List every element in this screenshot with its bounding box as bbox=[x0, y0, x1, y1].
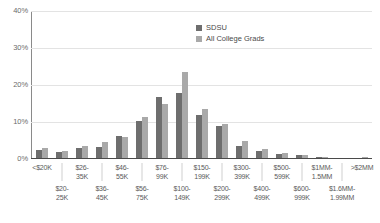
bar bbox=[162, 104, 168, 159]
x-axis-tick-label: <$20K bbox=[32, 160, 52, 222]
bar bbox=[122, 137, 128, 159]
bar-group bbox=[272, 11, 292, 159]
bar-group bbox=[172, 11, 192, 159]
legend-swatch-icon bbox=[196, 36, 202, 42]
x-axis-tick-text: $400-499K bbox=[254, 185, 271, 202]
y-axis-tick-label: 0% bbox=[17, 155, 28, 163]
x-axis-tick-text: $500-599K bbox=[274, 164, 291, 181]
x-axis-tick-label: $600-999K bbox=[292, 160, 312, 222]
bar bbox=[216, 126, 222, 159]
bar-group bbox=[52, 11, 72, 159]
x-axis-tick-label: $500-599K bbox=[272, 160, 292, 222]
x-axis-tick-mark bbox=[182, 163, 183, 181]
x-axis-tick-label: $200-299K bbox=[212, 160, 232, 222]
y-axis-tick-label: 20% bbox=[13, 81, 28, 89]
x-axis-tick-text: $100-149K bbox=[174, 185, 191, 202]
y-axis: 40%30%20%10%0% bbox=[0, 0, 30, 163]
legend-item[interactable]: SDSU bbox=[196, 24, 264, 32]
bar-group bbox=[152, 11, 172, 159]
bar-group bbox=[132, 11, 152, 159]
x-axis-tick-text: $300-399K bbox=[234, 164, 251, 181]
x-axis-tick-mark bbox=[142, 163, 143, 181]
legend-swatch-icon bbox=[196, 25, 202, 31]
x-axis-tick-label: $300-399K bbox=[232, 160, 252, 222]
x-axis-tick-text: >$2MM bbox=[351, 164, 374, 173]
x-axis-tick-text: $26-35K bbox=[75, 164, 88, 181]
y-axis-tick-label: 10% bbox=[13, 118, 28, 126]
x-axis-tick-text: $20-25K bbox=[55, 185, 68, 202]
bar-group bbox=[92, 11, 112, 159]
x-axis-tick-text: $46-55K bbox=[115, 164, 128, 181]
bar bbox=[102, 142, 108, 159]
bar-group bbox=[112, 11, 132, 159]
bar-group bbox=[352, 11, 372, 159]
bar-group bbox=[312, 11, 332, 159]
bar bbox=[222, 124, 228, 159]
x-axis-tick-label: >$2MM bbox=[352, 160, 372, 222]
bar bbox=[136, 121, 142, 159]
bar bbox=[176, 93, 182, 159]
x-axis-tick-label: $56-75K bbox=[132, 160, 152, 222]
x-axis-labels: <$20K$20-25K$26-35K$36-45K$46-55K$56-75K… bbox=[32, 160, 372, 222]
bar-group bbox=[32, 11, 52, 159]
bar bbox=[236, 146, 242, 159]
x-axis-tick-label: $46-55K bbox=[112, 160, 132, 222]
x-axis-tick-mark bbox=[342, 163, 343, 181]
x-axis-tick-label: $150-199K bbox=[192, 160, 212, 222]
x-axis-tick-mark bbox=[262, 163, 263, 181]
y-axis-tick-label: 40% bbox=[13, 7, 28, 15]
x-axis-tick-label: $20-25K bbox=[52, 160, 72, 222]
bar bbox=[142, 117, 148, 159]
x-axis-tick-mark bbox=[302, 163, 303, 181]
legend-item-label: All College Grads bbox=[206, 35, 264, 43]
x-axis-tick-mark bbox=[62, 163, 63, 181]
bar bbox=[242, 141, 248, 159]
bar bbox=[196, 115, 202, 159]
x-axis-tick-label: $100-149K bbox=[172, 160, 192, 222]
x-axis-tick-text: $1MM-1.5MM bbox=[312, 164, 333, 181]
x-axis-tick-label: $1.6MM-1.99MM bbox=[332, 160, 352, 222]
x-axis-tick-label: $400-499K bbox=[252, 160, 272, 222]
x-axis-tick-label: $36-45K bbox=[92, 160, 112, 222]
x-axis-tick-mark bbox=[222, 163, 223, 181]
x-axis-tick-label: $26-35K bbox=[72, 160, 92, 222]
x-axis-tick-text: $76-99K bbox=[155, 164, 168, 181]
bar-chart: 40%30%20%10%0% SDSUAll College Grads <$2… bbox=[0, 0, 380, 223]
bar bbox=[116, 136, 122, 159]
bar-group bbox=[72, 11, 92, 159]
x-axis-tick-text: $600-999K bbox=[294, 185, 311, 202]
x-axis-tick-text: $56-75K bbox=[135, 185, 148, 202]
bar bbox=[202, 109, 208, 159]
legend-item-label: SDSU bbox=[206, 24, 227, 32]
x-axis-tick-text: <$20K bbox=[32, 164, 51, 173]
x-axis-tick-text: $36-45K bbox=[95, 185, 108, 202]
bar-group bbox=[332, 11, 352, 159]
bar-group bbox=[292, 11, 312, 159]
bar bbox=[156, 97, 162, 159]
bar bbox=[182, 72, 188, 159]
legend-item[interactable]: All College Grads bbox=[196, 35, 264, 43]
x-axis-tick-label: $76-99K bbox=[152, 160, 172, 222]
legend: SDSUAll College Grads bbox=[196, 24, 264, 43]
y-axis-tick-label: 30% bbox=[13, 44, 28, 52]
x-axis-tick-text: $200-299K bbox=[214, 185, 231, 202]
x-axis-tick-text: $150-199K bbox=[194, 164, 211, 181]
x-axis-tick-mark bbox=[102, 163, 103, 181]
